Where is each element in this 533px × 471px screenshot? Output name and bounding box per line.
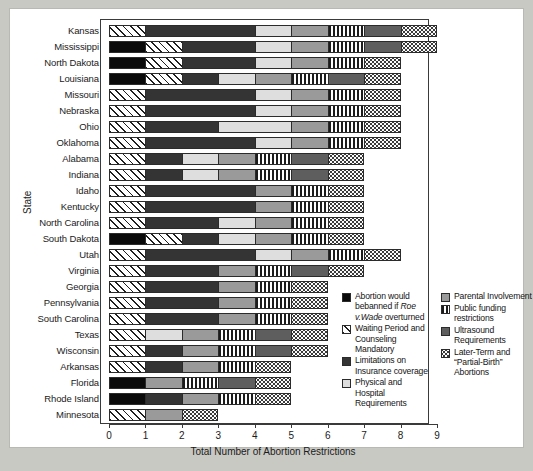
bar-segment-parental [255, 217, 291, 229]
legend-swatch-ultragray-icon [441, 327, 450, 336]
bar-segment-waiting [109, 281, 145, 293]
bar-segment-funding [255, 281, 291, 293]
legend-item-hatch: Waiting Period and Counseling Mandatory [342, 323, 433, 354]
bar-segment-funding [291, 217, 327, 229]
bar-segment-waiting [109, 201, 145, 213]
y-axis-label-louisiana: Louisiana [59, 73, 99, 85]
bar-segment-parental [291, 105, 327, 117]
bar-segment-insurance [145, 393, 181, 405]
bar-segment-insurance [145, 217, 218, 229]
legend-label: Public funding restrictions [454, 303, 532, 324]
bar-segment-insurance [145, 265, 218, 277]
x-tick [291, 424, 292, 428]
x-axis-title: Total Number of Abortion Restrictions [109, 446, 437, 457]
x-tick-label-9: 9 [427, 430, 447, 441]
x-tick-label-1: 1 [135, 430, 155, 441]
bar-segment-insurance [182, 73, 218, 85]
bar-segment-waiting [109, 121, 145, 133]
y-axis-label-south-dakota: South Dakota [43, 233, 99, 245]
bar-segment-waiting [109, 249, 145, 261]
bar-segment-waiting [145, 233, 181, 245]
y-axis-label-alabama: Alabama [62, 153, 99, 165]
bar-segment-banned [109, 57, 145, 69]
bar-segment-insurance [182, 57, 255, 69]
bar-segment-ultrasound [364, 41, 400, 53]
bar-segment-waiting [109, 25, 145, 37]
bar-segment-laterterm [255, 361, 291, 373]
bar-segment-laterterm [328, 201, 364, 213]
bar-segment-banned [109, 233, 145, 245]
bar-segment-laterterm [364, 73, 400, 85]
bar-segment-parental [291, 121, 327, 133]
bar-segment-physical [218, 217, 254, 229]
bar-segment-laterterm [328, 265, 364, 277]
bar-segment-insurance [145, 153, 181, 165]
x-tick-label-3: 3 [208, 430, 228, 441]
bar-segment-insurance [145, 345, 181, 357]
bar-segment-laterterm [364, 121, 400, 133]
bar-segment-funding [218, 393, 254, 405]
y-axis-label-pennsylvania: Pennsylvania [44, 297, 99, 309]
y-axis-label-kentucky: Kentucky [61, 201, 99, 213]
y-axis-label-wisconsin: Wisconsin [57, 345, 99, 357]
bar-segment-funding [218, 345, 254, 357]
bar-segment-insurance [145, 313, 218, 325]
bar-segment-parental [291, 41, 327, 53]
bar-segment-laterterm [328, 153, 364, 165]
bar-segment-laterterm [255, 393, 291, 405]
bar-segment-waiting [109, 329, 145, 341]
bar-segment-waiting [109, 185, 145, 197]
bar-segment-parental [291, 137, 327, 149]
figure-panel: State KansasMississippiNorth DakotaLouis… [9, 8, 524, 448]
bar-segment-insurance [145, 121, 218, 133]
bar-segment-parental [182, 393, 218, 405]
bar-segment-funding [255, 297, 291, 309]
bar-segment-parental [218, 265, 254, 277]
bar-segment-banned [109, 393, 145, 405]
y-axis-label-nebraska: Nebraska [59, 105, 99, 117]
legend-column-1: Abortion would bebanned if Roe v.Wade ov… [342, 291, 433, 409]
legend-item-ultragray: Ultrasound Requirements [441, 325, 532, 346]
bar-segment-funding [328, 137, 364, 149]
chart-page: State KansasMississippiNorth DakotaLouis… [0, 0, 533, 471]
bar-segment-insurance [145, 105, 254, 117]
bar-segment-waiting [145, 41, 181, 53]
legend-label: Limitations on Insurance coverage [355, 355, 433, 376]
y-axis-label-virginia: Virginia [68, 265, 99, 277]
y-axis-label-georgia: Georgia [66, 281, 99, 293]
bar-segment-funding [328, 25, 364, 37]
bar-segment-waiting [109, 169, 145, 181]
bar-segment-insurance [145, 89, 254, 101]
x-tick-label-6: 6 [318, 430, 338, 441]
bar-segment-insurance [145, 281, 218, 293]
y-axis-label-north-carolina: North Carolina [39, 217, 99, 229]
bar-segment-parental [182, 361, 218, 373]
bar-segment-ultrasound [291, 153, 327, 165]
legend-swatch-hatch-icon [342, 325, 351, 334]
bar-segment-banned [109, 377, 145, 389]
legend-swatch-vlines-icon [441, 305, 450, 314]
bar-segment-parental [291, 249, 327, 261]
bar-segment-insurance [145, 361, 181, 373]
legend-swatch-darkgray-icon [342, 357, 351, 366]
legend-swatch-light-icon [342, 379, 351, 388]
bar-segment-funding [291, 201, 327, 213]
x-tick [182, 424, 183, 428]
bar-segment-physical [255, 137, 291, 149]
y-axis-label-oklahoma: Oklahoma [57, 137, 100, 149]
bar-segment-funding [328, 57, 364, 69]
bar-segment-physical [218, 121, 291, 133]
bar-segment-parental [218, 313, 254, 325]
y-axis-tick-labels: KansasMississippiNorth DakotaLouisianaMi… [10, 23, 105, 423]
bar-segment-physical [145, 329, 181, 341]
legend-swatch-dots-icon [441, 349, 450, 358]
x-tick [218, 424, 219, 428]
y-axis-label-kansas: Kansas [68, 25, 99, 37]
bar-segment-parental [218, 281, 254, 293]
x-tick [437, 424, 438, 428]
bar-segment-ultrasound [291, 169, 327, 181]
x-tick-label-0: 0 [99, 430, 119, 441]
bar-segment-banned [109, 41, 145, 53]
bar-segment-laterterm [291, 329, 327, 341]
bar-segment-parental [291, 57, 327, 69]
